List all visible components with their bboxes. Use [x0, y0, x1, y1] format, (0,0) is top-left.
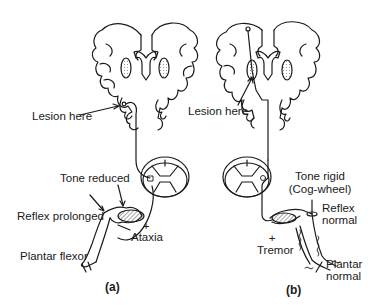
label-plantar-a: Plantar flexor: [20, 250, 88, 263]
label-ataxia: Ataxia: [131, 231, 163, 244]
label-plantar-b-2: normal: [326, 270, 361, 283]
label-lesion-b: Lesion here: [188, 105, 248, 118]
leg-a: [81, 185, 144, 272]
caption-b: (b): [286, 283, 301, 297]
spinal-cord-b: [223, 157, 271, 197]
label-lesion-a: Lesion here: [32, 110, 92, 123]
label-reflex-a: Reflex prolonged: [17, 210, 104, 223]
spinal-cord-a: [141, 157, 189, 197]
brain-section-a: [92, 23, 197, 130]
label-reflex-b-2: normal: [322, 214, 357, 227]
diagram-figure: Lesion here Tone reduced Reflex prolonge…: [0, 0, 374, 305]
label-tone-a: Tone reduced: [60, 172, 130, 185]
caption-a: (a): [105, 280, 120, 294]
label-tremor: Tremor: [257, 244, 294, 257]
label-tone-b-2: (Cog-wheel): [280, 183, 360, 196]
label-tone-b-1: Tone rigid: [280, 170, 360, 183]
